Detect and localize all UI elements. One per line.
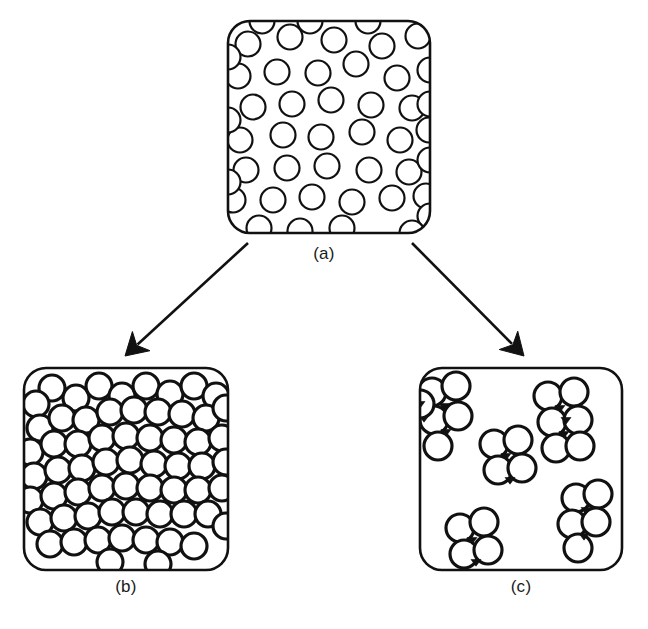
dispersed-particle (330, 216, 355, 241)
cluster-particle (442, 372, 470, 400)
network-particle (185, 477, 211, 503)
panel-a-particle-field (216, 9, 443, 246)
figure-root: (a) (b) (c) (0, 0, 648, 629)
network-particle (17, 439, 43, 465)
network-particle (137, 475, 163, 501)
network-particle (89, 425, 115, 451)
top-right-cluster (534, 378, 594, 462)
dispersed-particle (406, 24, 431, 49)
network-particle (141, 451, 167, 477)
dispersed-particle (261, 188, 286, 213)
center-cluster (480, 426, 536, 484)
network-particle (145, 551, 171, 577)
network-particle (169, 401, 195, 427)
dispersed-particle (275, 156, 300, 181)
network-particle (61, 529, 87, 555)
dispersed-particle (288, 219, 313, 244)
cluster-particle (566, 432, 594, 460)
dispersed-particle (388, 128, 413, 153)
network-particle (113, 423, 139, 449)
panel-a (216, 9, 443, 246)
network-particle (123, 499, 149, 525)
network-particle (213, 513, 239, 539)
network-particle (117, 447, 143, 473)
dispersed-particle (350, 120, 375, 145)
cluster-particle (560, 378, 588, 406)
network-particle (185, 429, 211, 455)
network-particle (45, 457, 71, 483)
network-particle (97, 399, 123, 425)
panel-b-caption: (b) (24, 578, 228, 595)
cluster-particle (424, 432, 452, 460)
dispersed-particle (357, 158, 382, 183)
dispersed-particle (265, 60, 290, 85)
network-particle (147, 501, 173, 527)
dispersed-particle (340, 190, 365, 215)
dispersed-particle (370, 34, 395, 59)
network-particle (137, 425, 163, 451)
network-particle (99, 499, 125, 525)
dispersed-particle (300, 185, 325, 210)
network-particle (133, 373, 159, 399)
network-particle (41, 431, 67, 457)
network-particle (93, 449, 119, 475)
dispersed-particle (385, 66, 410, 91)
network-particle (89, 475, 115, 501)
cluster-particle (504, 426, 532, 454)
panel-c (406, 368, 622, 570)
network-particle (145, 399, 171, 425)
network-particle (165, 453, 191, 479)
network-particle (209, 475, 235, 501)
dispersed-particle (359, 93, 384, 118)
dispersed-particle (344, 52, 369, 77)
network-particle (65, 479, 91, 505)
dispersed-particle (280, 92, 305, 117)
network-particle (37, 531, 63, 557)
network-particle (213, 395, 239, 421)
network-particle (209, 425, 235, 451)
network-particle (171, 501, 197, 527)
network-particle (133, 527, 159, 553)
bottom-left-cluster (446, 508, 502, 568)
network-particle (181, 533, 207, 559)
network-particle (213, 449, 239, 475)
dispersed-particle (247, 216, 272, 241)
dispersed-particle (319, 88, 344, 113)
network-particle (161, 427, 187, 453)
network-particle (65, 431, 91, 457)
right-lower-cluster (558, 480, 612, 562)
network-particle (23, 391, 49, 417)
panel-b (17, 368, 239, 577)
cluster-particle (470, 508, 498, 536)
dispersion-states-figure (0, 0, 648, 629)
panel-b-network-field (17, 373, 239, 577)
dispersed-particle (322, 28, 347, 53)
cluster-particle (584, 480, 612, 508)
network-particle (75, 503, 101, 529)
dispersed-particle (309, 125, 334, 150)
panel-a-caption: (a) (0, 245, 648, 262)
network-particle (109, 525, 135, 551)
dispersed-particle (380, 186, 405, 211)
network-particle (189, 453, 215, 479)
network-particle (51, 505, 77, 531)
network-particle (161, 477, 187, 503)
network-particle (69, 455, 95, 481)
panel-c-cluster-field (406, 372, 612, 568)
cluster-particle (564, 534, 592, 562)
panel-c-caption: (c) (420, 578, 622, 595)
dispersed-particle (241, 95, 266, 120)
dispersed-particle (315, 154, 340, 179)
cluster-particle (444, 402, 472, 430)
network-particle (113, 473, 139, 499)
dispersed-particle (271, 123, 296, 148)
network-particle (49, 405, 75, 431)
dispersed-particle (306, 61, 331, 86)
network-particle (121, 397, 147, 423)
